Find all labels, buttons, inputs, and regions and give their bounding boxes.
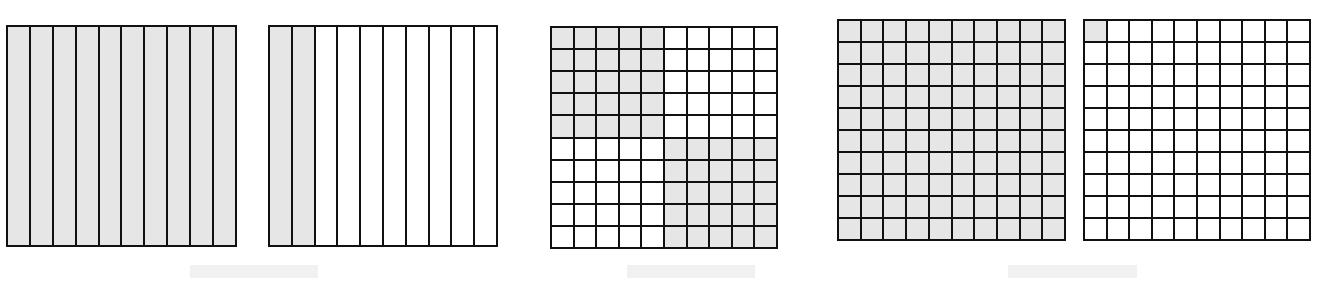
grid-cell-unshaded [1266,175,1287,195]
grid-cell-shaded [998,153,1019,173]
grid-cell-unshaded [552,139,573,159]
grid-cell-unshaded [1175,175,1196,195]
grid-cell-shaded [907,197,928,217]
grid-cell-unshaded [1266,131,1287,151]
grid-cell-unshaded [755,72,776,92]
grid-cell-unshaded [1085,175,1106,195]
strip-shaded [122,27,143,245]
grid-cell-shaded [907,65,928,85]
grid-cell-unshaded [1221,65,1242,85]
grid-cell-unshaded [1108,87,1129,107]
grid-cell-shaded [755,139,776,159]
grid-cell-shaded [839,109,860,129]
grid-cell-shaded [552,28,573,48]
grid-cell-unshaded [1175,87,1196,107]
grid-cell-unshaded [665,72,686,92]
grid-cell-shaded [1021,219,1042,239]
grid-cell-unshaded [755,50,776,70]
grid-cell-unshaded [710,116,731,136]
grid-cell-unshaded [1108,109,1129,129]
grid-cell-unshaded [575,205,596,225]
grid-cell-unshaded [1085,197,1106,217]
grid-cell-shaded [1043,131,1064,151]
strip-unshaded [430,27,451,245]
grid-cell-unshaded [688,94,709,114]
grid-cell-shaded [884,131,905,151]
grid-cell-unshaded [688,116,709,136]
caption-placeholder-2 [627,265,755,278]
grid-cell-shaded [839,65,860,85]
grid-cell-unshaded [1175,153,1196,173]
grid-cell-shaded [907,219,928,239]
grid-cell-shaded [665,139,686,159]
grid-cell-shaded [552,94,573,114]
strip-unshaded [316,27,337,245]
grid-cell-unshaded [620,227,641,247]
grid-cell-unshaded [1130,87,1151,107]
grid-cell-unshaded [1108,153,1129,173]
grid-cell-unshaded [552,183,573,203]
grid-cell-shaded [998,109,1019,129]
grid-cell-shaded [953,109,974,129]
grid-cell-unshaded [620,139,641,159]
grid-cell-unshaded [755,116,776,136]
grid-cell-unshaded [1108,43,1129,63]
grid-cell-unshaded [597,183,618,203]
strip-unshaded [407,27,428,245]
grid-cell-shaded [665,183,686,203]
grid-cell-shaded [884,65,905,85]
grid-cell-shaded [1043,175,1064,195]
grid-cell-unshaded [1243,21,1264,41]
strip-model-two-shaded [268,25,498,247]
grid-cell-unshaded [1108,219,1129,239]
grid-cell-unshaded [710,94,731,114]
grid-cell-shaded [710,205,731,225]
grid-cell-unshaded [1085,219,1106,239]
grid-cell-unshaded [1108,65,1129,85]
grid-cell-shaded [953,43,974,63]
grid-cell-unshaded [1175,109,1196,129]
grid-cell-shaded [1043,65,1064,85]
grid-cell-unshaded [1243,65,1264,85]
grid-cell-unshaded [1243,131,1264,151]
caption-placeholder-3 [1008,265,1137,278]
grid-cell-unshaded [1085,43,1106,63]
grid-cell-unshaded [1288,131,1309,151]
grid-cell-unshaded [1266,219,1287,239]
strip-unshaded [384,27,405,245]
grid-cell-unshaded [1288,65,1309,85]
grid-cell-unshaded [1153,87,1174,107]
grid-cell-unshaded [620,183,641,203]
grid-cell-unshaded [1221,219,1242,239]
grid-cell-shaded [710,161,731,181]
grid-cell-shaded [862,153,883,173]
strip-shaded [54,27,75,245]
grid-cell-unshaded [1153,131,1174,151]
grid-cell-unshaded [733,28,754,48]
grid-cell-unshaded [642,227,663,247]
grid-cell-unshaded [1130,175,1151,195]
grid-cell-unshaded [733,94,754,114]
grid-cell-shaded [998,175,1019,195]
grid-cell-shaded [930,131,951,151]
grid-cell-shaded [575,50,596,70]
grid-cell-shaded [1021,197,1042,217]
grid-cell-shaded [998,65,1019,85]
grid-cell-unshaded [1085,87,1106,107]
grid-cell-unshaded [1243,43,1264,63]
grid-cell-shaded [755,227,776,247]
grid-cell-shaded [755,161,776,181]
grid-cell-shaded [930,175,951,195]
grid-cell-unshaded [733,50,754,70]
grid-cell-shaded [575,94,596,114]
grid-cell-unshaded [1198,153,1219,173]
grid-cell-unshaded [1288,197,1309,217]
grid-cell-shaded [998,43,1019,63]
grid-cell-shaded [953,87,974,107]
grid-cell-shaded [839,175,860,195]
grid-cell-shaded [839,219,860,239]
grid-cell-unshaded [1266,109,1287,129]
grid-cell-shaded [665,161,686,181]
strip-unshaded [475,27,496,245]
grid-cell-shaded [862,21,883,41]
